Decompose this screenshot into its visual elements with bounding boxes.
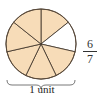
unit-label: 1 unit bbox=[20, 83, 64, 95]
denominator: 7 bbox=[83, 53, 97, 65]
numerator: 6 bbox=[83, 38, 97, 50]
fraction-label: 6 7 bbox=[83, 38, 97, 65]
